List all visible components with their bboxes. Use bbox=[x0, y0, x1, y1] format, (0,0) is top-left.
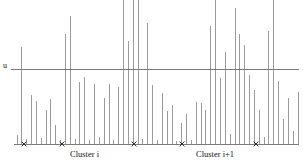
cluster-label-i-plus-1: Cluster i+1 bbox=[196, 150, 234, 159]
plot-canvas bbox=[0, 0, 303, 163]
cluster-label-i: Cluster i bbox=[70, 150, 99, 159]
stem-series bbox=[17, 0, 298, 144]
spike-threshold-figure: u Cluster i Cluster i+1 bbox=[0, 0, 303, 163]
threshold-label: u bbox=[3, 62, 7, 70]
